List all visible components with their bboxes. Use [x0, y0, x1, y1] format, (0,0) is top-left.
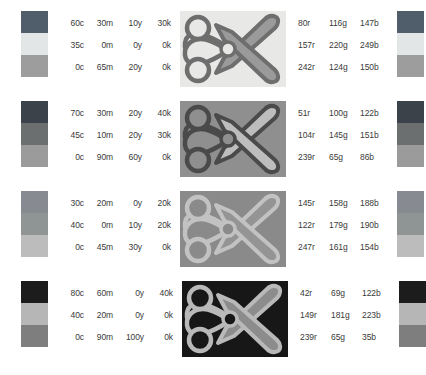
cmyk-magenta: 90m: [84, 332, 113, 342]
swatch: [21, 55, 48, 77]
cmyk-row: 45c 10m 20y 30k: [55, 124, 171, 146]
rgb-green: 181g: [331, 310, 362, 320]
scissors-artwork: [180, 11, 286, 87]
rgb-green: 65g: [329, 152, 360, 162]
rgb-blue: 122b: [362, 288, 393, 298]
rgb-row: 122r 179g 190b: [298, 214, 391, 236]
cmyk-magenta: 20m: [84, 198, 113, 208]
scissors-icon: [180, 11, 286, 87]
swatch: [397, 235, 424, 257]
cmyk-magenta: 0m: [84, 220, 113, 230]
rgb-blue: 249b: [360, 40, 391, 50]
cmyk-magenta: 65m: [84, 62, 113, 72]
swatch-stack-left: [21, 281, 48, 347]
rgb-blue: 147b: [360, 18, 391, 28]
rgb-red: 145r: [298, 198, 329, 208]
cmyk-black: 30k: [142, 18, 171, 28]
rgb-green: 124g: [329, 62, 360, 72]
cmyk-black: 20k: [142, 198, 171, 208]
swatch: [21, 303, 48, 325]
cmyk-black: 40k: [144, 288, 173, 298]
rgb-blue: 154b: [360, 242, 391, 252]
swatch: [21, 213, 48, 235]
cmyk-row: 40c 20m 0y 0k: [55, 304, 173, 326]
cmyk-yellow: 20y: [113, 62, 142, 72]
swatch: [21, 235, 48, 257]
rgb-red: 157r: [298, 40, 329, 50]
swatch-stack-left: [21, 11, 48, 77]
cmyk-cyan: 0c: [55, 332, 84, 342]
cmyk-values: 30c 20m 0y 20k 40c 0m 10y 20k 0c 45m 30y…: [55, 191, 171, 258]
cmyk-cyan: 45c: [55, 130, 84, 140]
variant-row: 30c 20m 0y 20k 40c 0m 10y 20k 0c 45m 30y…: [0, 180, 358, 270]
rgb-blue: 151b: [360, 130, 391, 140]
rgb-red: 104r: [298, 130, 329, 140]
cmyk-black: 0k: [142, 152, 171, 162]
swatch: [397, 191, 424, 213]
swatch-stack-left: [21, 101, 48, 167]
rgb-row: 145r 158g 188b: [298, 192, 391, 214]
swatch: [397, 213, 424, 235]
cmyk-values: 60c 30m 10y 30k 35c 0m 0y 0k 0c 65m 20y …: [55, 11, 171, 78]
cmyk-yellow: 30y: [113, 242, 142, 252]
rgb-red: 239r: [298, 152, 329, 162]
cmyk-yellow: 20y: [113, 108, 142, 118]
variant-row: 70c 30m 20y 40k 45c 10m 20y 30k 0c 90m 6…: [0, 90, 358, 180]
cmyk-row: 30c 20m 0y 20k: [55, 192, 171, 214]
cmyk-cyan: 60c: [55, 18, 84, 28]
rgb-green: 161g: [329, 242, 360, 252]
cmyk-magenta: 30m: [84, 108, 113, 118]
swatch: [399, 303, 426, 325]
cmyk-yellow: 0y: [113, 198, 142, 208]
rgb-values: 42r 69g 122b 149r 181g 223b 239r 65g 35b: [300, 281, 393, 348]
rgb-green: 116g: [329, 18, 360, 28]
cmyk-yellow: 0y: [113, 288, 144, 298]
swatch: [399, 281, 426, 303]
rgb-red: 149r: [300, 310, 331, 320]
swatch-stack-left: [21, 191, 48, 257]
rgb-red: 42r: [300, 288, 331, 298]
variant-row: 80c 60m 0y 40k 40c 20m 0y 0k 0c 90m 100y…: [0, 270, 358, 360]
cmyk-black: 0k: [144, 332, 173, 342]
cmyk-row: 0c 45m 30y 0k: [55, 236, 171, 258]
cmyk-row: 40c 0m 10y 20k: [55, 214, 171, 236]
rgb-row: 80r 116g 147b: [298, 12, 391, 34]
cmyk-black: 0k: [144, 310, 173, 320]
cmyk-row: 70c 30m 20y 40k: [55, 102, 171, 124]
swatch: [397, 123, 424, 145]
cmyk-row: 0c 90m 60y 0k: [55, 146, 171, 168]
cmyk-yellow: 20y: [113, 130, 142, 140]
rgb-red: 247r: [298, 242, 329, 252]
rgb-red: 242r: [298, 62, 329, 72]
swatch: [21, 281, 48, 303]
cmyk-black: 0k: [142, 242, 171, 252]
swatch: [21, 145, 48, 167]
swatch: [21, 101, 48, 123]
cmyk-magenta: 20m: [84, 310, 113, 320]
swatch: [21, 11, 48, 33]
rgb-green: 100g: [329, 108, 360, 118]
swatch-stack-right: [397, 191, 424, 257]
swatch-stack-right: [397, 101, 424, 167]
swatch: [399, 325, 426, 347]
cmyk-magenta: 10m: [84, 130, 113, 140]
cmyk-cyan: 40c: [55, 310, 84, 320]
rgb-values: 51r 100g 122b 104r 145g 151b 239r 65g 86…: [298, 101, 391, 168]
rgb-red: 122r: [298, 220, 329, 230]
rgb-row: 239r 65g 86b: [298, 146, 391, 168]
rgb-blue: 190b: [360, 220, 391, 230]
cmyk-cyan: 30c: [55, 198, 84, 208]
cmyk-yellow: 0y: [113, 310, 144, 320]
cmyk-black: 40k: [142, 108, 171, 118]
swatch: [21, 123, 48, 145]
rgb-row: 247r 161g 154b: [298, 236, 391, 258]
cmyk-yellow: 10y: [113, 18, 142, 28]
cmyk-cyan: 35c: [55, 40, 84, 50]
cmyk-magenta: 0m: [84, 40, 113, 50]
cmyk-black: 30k: [142, 130, 171, 140]
rgb-green: 145g: [329, 130, 360, 140]
cmyk-black: 0k: [142, 40, 171, 50]
swatch: [21, 325, 48, 347]
rgb-blue: 188b: [360, 198, 391, 208]
cmyk-cyan: 70c: [55, 108, 84, 118]
